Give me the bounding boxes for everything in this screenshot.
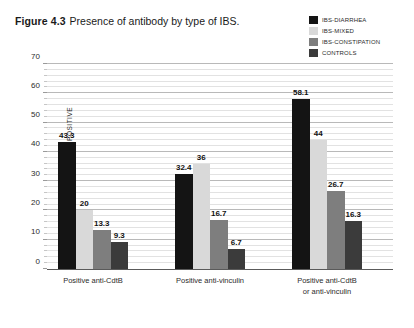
bar[interactable]: 13.3 (93, 230, 111, 269)
y-tick-label: 0 (36, 256, 40, 265)
bar-value-label: 6.7 (231, 238, 242, 247)
bar[interactable]: 58.1 (292, 99, 310, 269)
legend-item-label: CONTROLS (322, 50, 357, 56)
x-axis-group-label: Positive anti-CdtBor anti-vinculin (267, 276, 387, 297)
legend-item: CONTROLS (309, 48, 380, 58)
y-tick-mark (44, 227, 47, 228)
y-tick-mark (44, 139, 47, 140)
figure-number: Figure 4.3 (15, 15, 66, 27)
y-tick-mark (44, 256, 47, 257)
bar[interactable]: 6.7 (228, 249, 246, 269)
y-tick-mark (44, 168, 47, 169)
y-tick-mark (43, 63, 47, 64)
bar-slot: 26.7 (327, 64, 345, 269)
bar[interactable]: 43.3 (58, 142, 76, 269)
bar-value-label: 58.1 (293, 88, 309, 97)
figure-caption: Figure 4.3Presence of antibody by type o… (15, 15, 239, 28)
y-tick-mark (44, 98, 47, 99)
bar-slot: 6.7 (228, 64, 246, 269)
legend-swatch-icon (309, 16, 318, 24)
figure-title: Presence of antibody by type of IBS. (70, 15, 240, 27)
bar[interactable]: 16.7 (210, 220, 228, 269)
legend-item: IBS-CONSTIPATION (309, 37, 380, 47)
bar-value-label: 9.3 (114, 231, 125, 240)
bar-slot: 16.7 (210, 64, 228, 269)
y-tick-mark (44, 245, 47, 246)
x-axis-label-line: Positive anti-CdtB (33, 276, 153, 287)
y-tick-mark (44, 127, 47, 128)
legend-item: IBS-DIARRHEA (309, 15, 380, 25)
bar-slot: 44 (310, 64, 328, 269)
y-tick-mark (44, 250, 47, 251)
y-tick-label: 10 (31, 227, 40, 236)
legend-swatch-icon (309, 49, 318, 57)
y-tick-mark (44, 215, 47, 216)
y-tick-mark (44, 69, 47, 70)
y-tick-mark (44, 104, 47, 105)
y-tick-mark (44, 204, 47, 205)
bar-slot: 20 (76, 64, 94, 269)
plot-area: PERCENT OF PATIENTS POSITIVE 43.32013.39… (47, 64, 393, 269)
y-tick-mark (44, 116, 47, 117)
y-tick-mark (44, 163, 47, 164)
y-tick-mark (44, 233, 47, 234)
x-axis-label-line: or anti-vinculin (267, 287, 387, 298)
y-tick-mark (43, 122, 47, 123)
y-tick-mark (44, 110, 47, 111)
legend-swatch-icon (309, 38, 318, 46)
y-tick-mark (44, 81, 47, 82)
bar-slot: 13.3 (93, 64, 111, 269)
bars-layer: 43.32013.39.332.43616.76.758.14426.716.3 (47, 64, 393, 269)
bar-group: 32.43616.76.7 (175, 64, 245, 269)
y-tick-mark (44, 145, 47, 146)
y-tick-mark (44, 133, 47, 134)
bar[interactable]: 36 (193, 164, 211, 269)
y-tick-mark (43, 180, 47, 181)
bar-value-label: 43.3 (59, 131, 75, 140)
x-axis-label-line: Positive anti-CdtB (267, 276, 387, 287)
bar-value-label: 36 (197, 153, 206, 162)
y-tick-label: 40 (31, 139, 40, 148)
y-tick-mark (44, 198, 47, 199)
bar-value-label: 13.3 (94, 219, 110, 228)
y-tick-mark (43, 92, 47, 93)
y-tick-mark (44, 221, 47, 222)
bar-slot: 36 (193, 64, 211, 269)
bar-slot: 32.4 (175, 64, 193, 269)
y-tick-mark (44, 192, 47, 193)
bar-slot: 43.3 (58, 64, 76, 269)
legend-swatch-icon (309, 27, 318, 35)
y-tick-label: 50 (31, 110, 40, 119)
y-tick-mark (43, 151, 47, 152)
y-tick-label: 60 (31, 80, 40, 89)
legend-item-label: IBS-MIXED (322, 28, 354, 34)
x-axis-group-label: Positive anti-CdtB (33, 276, 153, 287)
bar[interactable]: 26.7 (327, 191, 345, 269)
bar-group: 58.14426.716.3 (292, 64, 362, 269)
bar[interactable]: 20 (76, 210, 94, 269)
y-tick-mark (44, 262, 47, 263)
bar-slot: 9.3 (111, 64, 129, 269)
bar-value-label: 20 (80, 199, 89, 208)
y-tick-mark (44, 186, 47, 187)
chart-legend: IBS-DIARRHEAIBS-MIXEDIBS-CONSTIPATIONCON… (309, 15, 380, 58)
bar[interactable]: 16.3 (345, 221, 363, 269)
y-tick-mark (44, 174, 47, 175)
y-tick-label: 20 (31, 197, 40, 206)
bar[interactable]: 9.3 (111, 242, 129, 269)
y-tick-label: 30 (31, 168, 40, 177)
y-tick-mark (43, 209, 47, 210)
bar[interactable]: 44 (310, 140, 328, 269)
bar-slot: 58.1 (292, 64, 310, 269)
x-axis-labels: Positive anti-CdtBPositive anti-vinculin… (47, 276, 393, 316)
bar[interactable]: 32.4 (175, 174, 193, 269)
y-tick-mark (44, 86, 47, 87)
bar-value-label: 32.4 (176, 163, 192, 172)
y-tick-mark (44, 75, 47, 76)
y-tick-mark (43, 268, 47, 269)
legend-item: IBS-MIXED (309, 26, 380, 36)
bar-value-label: 16.3 (345, 210, 361, 219)
bar-value-label: 26.7 (328, 180, 344, 189)
x-axis-group-label: Positive anti-vinculin (150, 276, 270, 287)
x-axis-line (47, 269, 393, 270)
